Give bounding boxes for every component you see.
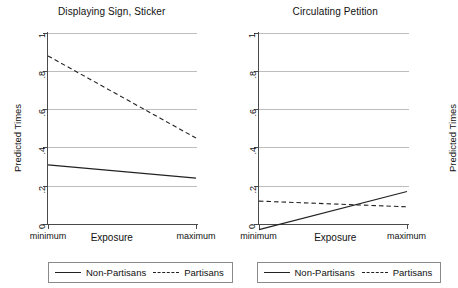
legend-key-dashed-icon bbox=[153, 272, 179, 273]
y-tick-label-04: .4 bbox=[37, 147, 47, 155]
legend-label-partisans: Partisans bbox=[184, 267, 226, 278]
legend-label-non-partisans: Non-Partisans bbox=[86, 267, 148, 278]
series-lines bbox=[48, 33, 198, 225]
legend-label-non-partisans: Non-Partisans bbox=[295, 267, 357, 278]
y-axis-title: Predicted Times bbox=[447, 104, 458, 172]
y-tick-label-08: .8 bbox=[248, 71, 258, 79]
legend: Non-Partisans Partisans bbox=[48, 262, 233, 283]
y-tick-label-06: .6 bbox=[37, 109, 47, 117]
legend-key-solid-icon bbox=[55, 272, 81, 273]
legend-key-dashed-icon bbox=[362, 272, 388, 273]
legend-key-solid-icon bbox=[264, 272, 290, 273]
y-axis-title: Predicted Times bbox=[12, 104, 23, 172]
plot-area: 1 .8 .6 .4 .2 0 minimum maximum bbox=[259, 33, 409, 224]
panel-displaying-sign-sticker: Displaying Sign, Sticker Predicted Times… bbox=[0, 0, 224, 288]
line-partisans bbox=[259, 201, 407, 207]
plot-area: 1 .8 .6 .4 .2 0 minimum maximum bbox=[48, 33, 197, 224]
line-non-partisans bbox=[48, 165, 196, 178]
series-lines bbox=[259, 33, 409, 243]
line-partisans bbox=[48, 56, 196, 138]
y-tick-label-1: 1 bbox=[37, 33, 47, 38]
legend: Non-Partisans Partisans bbox=[257, 262, 442, 283]
line-non-partisans bbox=[259, 192, 407, 230]
x-axis-title: Exposure bbox=[0, 232, 224, 243]
panel-title: Displaying Sign, Sticker bbox=[0, 6, 224, 17]
y-tick-label-06: .6 bbox=[248, 109, 258, 117]
y-tick-label-02: .2 bbox=[37, 186, 47, 194]
y-tick-label-04: .4 bbox=[248, 147, 258, 155]
y-tick-label-08: .8 bbox=[37, 71, 47, 79]
legend-label-partisans: Partisans bbox=[393, 267, 435, 278]
panel-circulating-petition: Circulating Petition Predicted Times 1 .… bbox=[224, 0, 448, 288]
y-tick-label-0: 0 bbox=[37, 224, 47, 229]
panel-title: Circulating Petition bbox=[224, 6, 448, 17]
y-tick-label-1: 1 bbox=[248, 33, 258, 38]
y-tick-label-0: 0 bbox=[248, 224, 258, 229]
x-axis-title: Exposure bbox=[224, 232, 448, 243]
y-tick-label-02: .2 bbox=[248, 186, 258, 194]
